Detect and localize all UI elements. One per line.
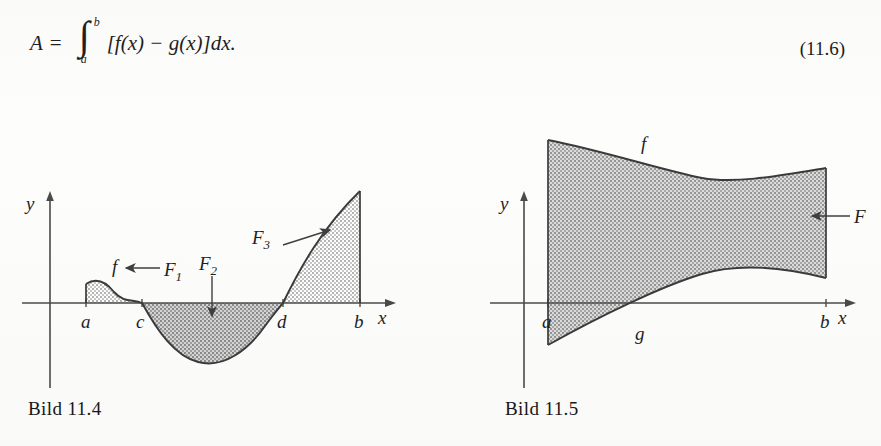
- tick-label-a: a: [81, 311, 91, 332]
- curve-label-f: f: [641, 133, 649, 154]
- tick-label-c: c: [136, 311, 145, 332]
- tick-label-a: a: [542, 311, 552, 332]
- caption-bild-11-5: Bild 11.5: [505, 398, 579, 420]
- tick-label-b: b: [354, 311, 364, 332]
- area-formula: A = ∫ b a [f(x) − g(x)]dx.: [30, 20, 236, 66]
- tick-label-b: b: [820, 311, 830, 332]
- x-axis-label: x: [377, 307, 387, 328]
- equation-number: (11.6): [800, 38, 845, 60]
- formula-row: A = ∫ b a [f(x) − g(x)]dx. (11.6): [0, 16, 881, 78]
- formula-integrand: [f(x) − g(x)]dx.: [107, 31, 236, 56]
- curve-label-f: f: [112, 256, 120, 277]
- formula-lhs: A: [30, 31, 43, 56]
- integral-lower-limit: a: [81, 52, 87, 67]
- y-axis-label: y: [498, 193, 509, 214]
- tick-label-d: d: [277, 311, 287, 332]
- region-label-F3: F3: [251, 227, 271, 252]
- x-axis-label: x: [837, 307, 847, 328]
- formula-equals: =: [50, 31, 62, 56]
- figure-bild-11-4: y x a c d b f F1 F2 F3: [0, 88, 440, 388]
- region-label-F: F: [853, 206, 866, 227]
- region-label-F2: F2: [198, 253, 218, 278]
- document-page: A = ∫ b a [f(x) − g(x)]dx. (11.6): [0, 0, 881, 446]
- integral-symbol-group: ∫ b a: [75, 20, 105, 66]
- integral-upper-limit: b: [94, 15, 100, 30]
- caption-bild-11-4: Bild 11.4: [28, 398, 102, 420]
- y-axis-label: y: [24, 193, 35, 214]
- integral-sign: ∫: [79, 16, 90, 56]
- curve-label-g: g: [635, 323, 645, 344]
- figure-bild-11-5: y x a b f g F: [430, 88, 881, 388]
- region-label-F1: F1: [163, 259, 182, 284]
